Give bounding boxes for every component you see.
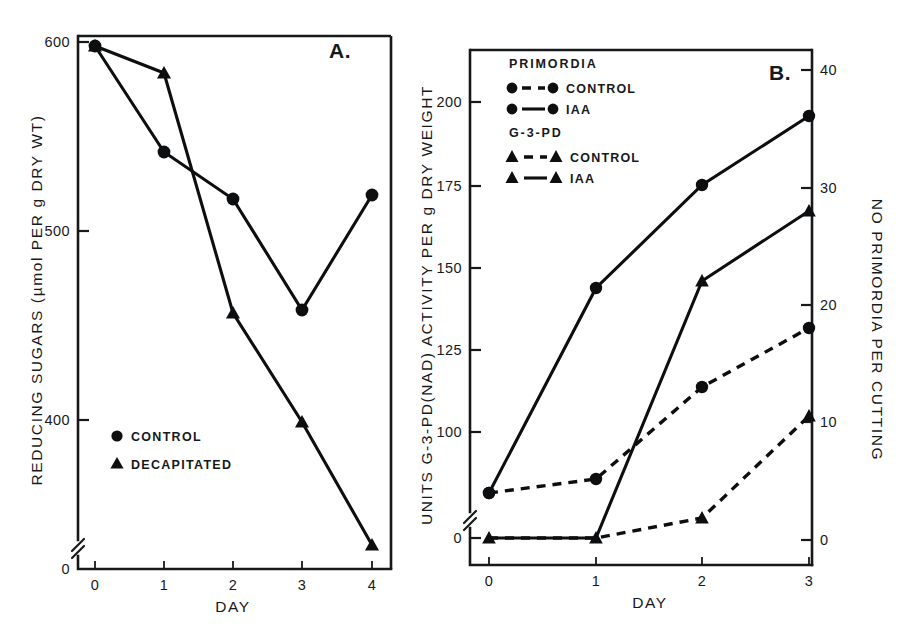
panel-b-left-y-ticks bbox=[470, 102, 481, 538]
panel-a-x-axis-title: DAY bbox=[215, 598, 251, 615]
panel-b-y-axis-title-right: NO PRIMORDIA PER CUTTING bbox=[869, 199, 886, 461]
panel-b-primordia-control-point-day2 bbox=[696, 381, 708, 393]
panel-a-xtick-label-3: 3 bbox=[298, 577, 306, 593]
panel-a-y-ticks bbox=[78, 42, 89, 420]
panel-a: 600 500 400 0 0 1 2 3 4 DAY REDUCING SUG… bbox=[28, 34, 391, 615]
panel-b-legend-circle-icon-control bbox=[507, 83, 518, 94]
panel-a-y-axis-lower-and-x-axis bbox=[78, 556, 391, 569]
panel-a-xtick-label-0: 0 bbox=[91, 577, 99, 593]
panel-b-series-g3pd-iaa-markers bbox=[482, 204, 816, 544]
panel-b-legend-label-primordia-iaa: IAA bbox=[566, 103, 591, 117]
panel-b-primordia-control-point-day0 bbox=[483, 487, 495, 499]
panel-a-control-point-day1 bbox=[158, 146, 171, 159]
panel-a-decapitated-point-day4 bbox=[365, 538, 379, 551]
panel-b-xtick-label-0: 0 bbox=[485, 573, 493, 589]
panel-b-g3pd-control-point-day3 bbox=[802, 409, 816, 422]
panel-b-letter: B. bbox=[769, 61, 791, 84]
panel-b-ytick-left-label-150: 150 bbox=[437, 260, 462, 276]
panel-b-primordia-iaa-point-day3 bbox=[803, 110, 815, 122]
panel-a-xtick-label-4: 4 bbox=[368, 577, 376, 593]
panel-b-legend-triangle-icon-iaa-2 bbox=[550, 171, 563, 183]
panel-a-legend-label-control: CONTROL bbox=[131, 430, 202, 444]
panel-b-legend-circle-icon-iaa bbox=[507, 104, 518, 115]
panel-b-legend-triangle-icon-control-2 bbox=[550, 150, 563, 162]
panel-a-y-axis-title: REDUCING SUGARS (µmol PER g DRY WT) bbox=[28, 115, 45, 486]
panel-a-legend-triangle-icon bbox=[110, 457, 123, 469]
panel-b-legend-label-primordia-control: CONTROL bbox=[566, 82, 636, 96]
panel-a-control-point-day3 bbox=[296, 304, 309, 317]
panel-b-y-axis-title-left: UNITS G-3-PD(NAD) ACTIVITY PER g DRY WEI… bbox=[418, 85, 435, 525]
panel-b-legend-circle-icon-iaa-2 bbox=[548, 104, 559, 115]
panel-a-ytick-label-500: 500 bbox=[45, 223, 70, 239]
panel-b-legend-circle-icon-control-2 bbox=[548, 83, 559, 94]
panel-b-legend-heading-g3pd: G-3-PD bbox=[509, 126, 563, 140]
panel-b-legend-triangle-icon-iaa bbox=[506, 171, 519, 183]
panel-a-control-point-day4 bbox=[366, 189, 379, 202]
panel-b-xtick-label-3: 3 bbox=[805, 573, 813, 589]
panel-a-ytick-label-400: 400 bbox=[45, 412, 70, 428]
panel-b-right-y-ticks bbox=[801, 70, 812, 540]
panel-a-legend-circle-icon bbox=[111, 430, 122, 441]
panel-b-legend-label-g3pd-iaa: IAA bbox=[570, 172, 595, 186]
panel-a-series-decapitated-markers bbox=[88, 39, 379, 551]
panel-a-series-control-markers bbox=[89, 40, 379, 317]
panel-b-series-g3pd-iaa-line bbox=[489, 211, 809, 538]
panel-a-legend: CONTROL DECAPITATED bbox=[110, 430, 232, 472]
panel-b-series-primordia-iaa-line bbox=[489, 116, 809, 493]
panel-b-legend-triangle-icon-control bbox=[506, 150, 519, 162]
panel-b-primordia-control-point-day1 bbox=[590, 473, 602, 485]
panel-a-series-control-line bbox=[95, 46, 372, 310]
panel-b-ytick-left-label-100: 100 bbox=[437, 424, 462, 440]
panel-b-ytick-left-label-0: 0 bbox=[454, 530, 462, 546]
panel-a-control-point-day2 bbox=[227, 193, 240, 206]
figure-svg: 600 500 400 0 0 1 2 3 4 DAY REDUCING SUG… bbox=[0, 0, 907, 633]
panel-b-ytick-right-label-0: 0 bbox=[820, 532, 828, 548]
panel-b-primordia-iaa-point-day1 bbox=[590, 282, 602, 294]
panel-b-ytick-left-label-200: 200 bbox=[437, 94, 462, 110]
panel-b-ytick-left-label-125: 125 bbox=[437, 342, 462, 358]
panel-b-legend-label-g3pd-control: CONTROL bbox=[570, 151, 640, 165]
panel-b: 200 175 150 125 100 0 40 30 20 10 0 bbox=[418, 50, 886, 611]
panel-a-ytick-label-0: 0 bbox=[62, 561, 70, 577]
panel-b-ytick-right-label-20: 20 bbox=[820, 297, 837, 313]
panel-b-ytick-right-label-30: 30 bbox=[820, 180, 837, 196]
panel-b-primordia-iaa-point-day2 bbox=[696, 179, 708, 191]
panel-b-xtick-label-1: 1 bbox=[592, 573, 600, 589]
panel-b-legend: PRIMORDIA CONTROL IAA G-3-PD CONTROL IAA bbox=[506, 57, 641, 186]
panel-b-primordia-control-point-day3 bbox=[803, 322, 815, 334]
panel-b-x-axis-title: DAY bbox=[632, 594, 668, 611]
panel-b-xtick-label-2: 2 bbox=[698, 573, 706, 589]
panel-b-left-axis-lower-and-x-axis bbox=[470, 528, 812, 565]
panel-b-g3pd-iaa-point-day2 bbox=[695, 274, 709, 287]
figure-root: 600 500 400 0 0 1 2 3 4 DAY REDUCING SUG… bbox=[0, 0, 907, 633]
panel-a-ytick-label-600: 600 bbox=[45, 34, 70, 50]
panel-a-legend-label-decapitated: DECAPITATED bbox=[131, 458, 232, 472]
panel-a-xtick-label-2: 2 bbox=[229, 577, 237, 593]
panel-b-ytick-right-label-10: 10 bbox=[820, 414, 837, 430]
panel-b-series-primordia-iaa-markers bbox=[483, 110, 815, 499]
panel-b-legend-heading-primordia: PRIMORDIA bbox=[509, 57, 598, 71]
panel-b-ytick-left-label-175: 175 bbox=[437, 178, 462, 194]
panel-a-xtick-label-1: 1 bbox=[160, 577, 168, 593]
panel-b-g3pd-iaa-point-day3 bbox=[802, 204, 816, 217]
panel-a-decapitated-point-day2 bbox=[226, 306, 240, 319]
panel-b-ytick-right-label-40: 40 bbox=[820, 62, 837, 78]
panel-a-letter: A. bbox=[329, 39, 351, 62]
